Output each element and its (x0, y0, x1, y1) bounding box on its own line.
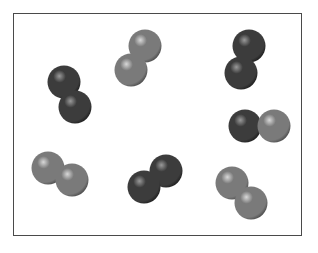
molecule-7 (216, 167, 268, 220)
dark-atom-icon (59, 91, 92, 124)
molecule-6 (128, 155, 183, 204)
light-atom-icon (258, 110, 291, 143)
molecule-3 (225, 30, 266, 90)
molecule-2 (115, 30, 162, 87)
dark-atom-icon (229, 110, 262, 143)
dark-atom-icon (128, 171, 161, 204)
light-atom-icon (115, 54, 148, 87)
molecules-layer (32, 30, 291, 220)
molecule-1 (48, 66, 92, 124)
molecule-scene (0, 0, 318, 253)
molecule-5 (32, 152, 89, 197)
dark-atom-icon (225, 57, 258, 90)
light-atom-icon (56, 164, 89, 197)
light-atom-icon (235, 187, 268, 220)
molecule-4 (229, 110, 291, 143)
